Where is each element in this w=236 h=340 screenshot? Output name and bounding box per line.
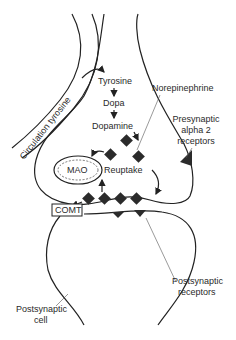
presynaptic-alpha2-label-3: receptors: [177, 136, 215, 146]
release-arrow: [152, 170, 159, 194]
postsynaptic-receptor: [134, 210, 146, 217]
ne-molecule: [104, 148, 117, 161]
arrow-dopamine-ne: [134, 132, 138, 140]
postsynaptic-cell: [47, 211, 196, 325]
cleft-ne-molecule: [130, 192, 143, 205]
postsynaptic-receptors-label-1: Postsynaptic: [172, 276, 224, 286]
ne-molecule: [120, 134, 133, 147]
postsynaptic-receptor: [112, 212, 124, 218]
cleft-ne-molecule: [98, 192, 111, 205]
reuptake-label: Reuptake: [104, 165, 143, 175]
cleft-ne-molecule: [114, 192, 127, 205]
comt-label: COMT: [55, 205, 82, 215]
presynaptic-alpha2-label-2: alpha 2: [181, 125, 211, 135]
postsynaptic-receptors-leader: [146, 218, 176, 282]
norepinephrine-label: Norepinephrine: [152, 83, 214, 93]
norepinephrine-leader: [137, 95, 160, 150]
tyrosine-label: Tyrosine: [98, 76, 132, 86]
postsynaptic-cell-label-1: Postsynaptic: [16, 304, 68, 314]
dopamine-label: Dopamine: [92, 121, 133, 131]
postsynaptic-cell-label-2: cell: [34, 315, 48, 325]
circulation-tyrosine-label: Circulation tyrosine: [18, 95, 73, 161]
blood-vessel: [12, 14, 98, 158]
dopa-label: Dopa: [103, 98, 125, 108]
ne-molecule: [132, 150, 145, 163]
mao-label: MAO: [67, 165, 88, 175]
presynaptic-alpha2-label-1: Presynaptic: [172, 114, 220, 124]
synapse-diagram: Circulation tyrosine Tyrosine Dopa Dopam…: [0, 0, 236, 340]
arrow-to-mao: [92, 151, 104, 156]
postsynaptic-receptors-label-2: receptors: [178, 287, 216, 297]
